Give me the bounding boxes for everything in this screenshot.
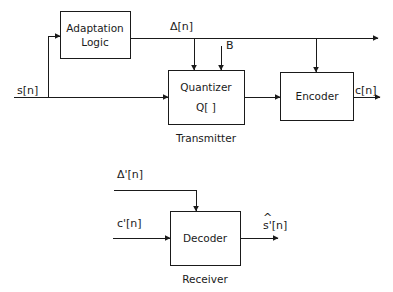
block-quantizer [169, 71, 245, 125]
signal-label-b: B [226, 39, 234, 52]
diagram-canvas: Adaptation Logic Δ[n] B s[n] Quantizer Q… [0, 0, 393, 292]
block-adaptation-logic-label-line1: Adaptation [66, 22, 123, 34]
signal-label-delta-prime-n: Δ'[n] [117, 168, 143, 181]
signal-line-s-to-adaptation-logic [48, 36, 60, 97]
block-encoder-label: Encoder [296, 90, 340, 102]
signal-line-delta-prime-to-decoder [114, 190, 196, 211]
signal-label-c-n: c[n] [355, 84, 377, 97]
block-decoder-label: Decoder [183, 232, 228, 244]
block-adaptation-logic-label-line2: Logic [81, 36, 109, 48]
block-quantizer-label-line2: Q[ ] [196, 101, 216, 113]
block-diagram: Adaptation Logic Δ[n] B s[n] Quantizer Q… [0, 0, 393, 292]
signal-label-s-n: s[n] [17, 84, 38, 97]
signal-label-s-hat-accent: ^ [263, 211, 272, 224]
block-adaptation-logic [61, 12, 131, 59]
signal-label-c-prime-n: c'[n] [117, 217, 142, 230]
block-quantizer-label-line1: Quantizer [180, 81, 232, 93]
section-label-transmitter: Transmitter [175, 132, 237, 144]
section-label-receiver: Receiver [182, 273, 228, 285]
signal-label-delta-n: Δ[n] [170, 20, 193, 33]
